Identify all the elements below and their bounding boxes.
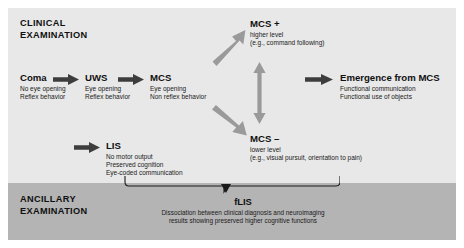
ancillary-examination-title: ANCILLARY EXAMINATION bbox=[20, 194, 87, 217]
node-uws-lines: Eye opening Reflex behavior bbox=[85, 85, 130, 101]
node-emergence-lines: Functional communication Functional use … bbox=[340, 85, 440, 101]
arrow-right-icon-to-lis bbox=[74, 142, 100, 153]
arrow-right-icon-to-emergence bbox=[305, 74, 333, 85]
flis-block: fLIS Dissociation between clinical diagn… bbox=[108, 196, 378, 226]
clinical-examination-title: CLINICAL EXAMINATION bbox=[20, 18, 87, 41]
flis-description: Dissociation between clinical diagnosis … bbox=[108, 209, 378, 226]
node-mcs-minus-title: MCS – bbox=[250, 133, 362, 144]
node-lis: LIS No motor output Preserved cognition … bbox=[106, 140, 183, 178]
node-coma-lines: No eye opening Reflex behavior bbox=[20, 85, 66, 101]
arrow-right-icon-coma-to-uws bbox=[53, 74, 79, 85]
flis-bracket bbox=[124, 176, 340, 196]
node-mcs-title: MCS bbox=[150, 72, 206, 83]
node-lis-title: LIS bbox=[106, 140, 183, 151]
node-mcs-plus-lines: higher level (e.g., command following) bbox=[250, 31, 324, 47]
node-mcs-minus: MCS – lower level (e.g., visual pursuit,… bbox=[250, 133, 362, 162]
node-mcs-plus: MCS + higher level (e.g., command follow… bbox=[250, 18, 324, 47]
node-emergence-title: Emergence from MCS bbox=[340, 72, 440, 83]
arrow-right-icon-uws-to-mcs bbox=[118, 74, 144, 85]
node-lis-lines: No motor output Preserved cognition Eye-… bbox=[106, 153, 183, 178]
node-emergence-from-mcs: Emergence from MCS Functional communicat… bbox=[340, 72, 440, 101]
flis-title: fLIS bbox=[108, 196, 378, 207]
node-mcs-plus-title: MCS + bbox=[250, 18, 324, 29]
arrow-double-vertical-icon-mcs-plus-minus bbox=[253, 62, 266, 124]
arrow-diagonal-up-right-icon-mcs-to-mcs-plus bbox=[212, 30, 246, 66]
consciousness-disorders-diagram: CLINICAL EXAMINATION ANCILLARY EXAMINATI… bbox=[0, 0, 464, 248]
node-mcs: MCS Eye opening Non reflex behavior bbox=[150, 72, 206, 101]
arrow-diagonal-down-right-icon-mcs-to-mcs-minus bbox=[212, 105, 248, 137]
node-mcs-minus-lines: lower level (e.g., visual pursuit, orien… bbox=[250, 146, 362, 162]
node-mcs-lines: Eye opening Non reflex behavior bbox=[150, 85, 206, 101]
